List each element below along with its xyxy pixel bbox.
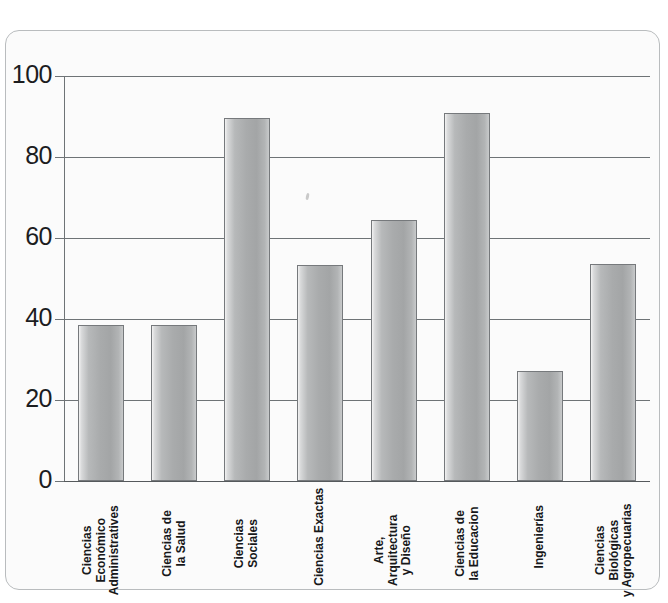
x-axis-label: CienciasEconómicoAdministratives <box>61 486 141 594</box>
bar <box>297 265 343 481</box>
bar <box>444 113 490 481</box>
bar-series <box>64 76 650 481</box>
y-tick-label-20: 20 <box>4 386 52 411</box>
x-axis-labels: CienciasEconómicoAdministrativesCiencias… <box>64 486 650 596</box>
x-axis-label-text: CienciasEconómicoAdministratives <box>80 505 121 595</box>
y-tick-label-60: 60 <box>4 224 52 249</box>
x-axis-label-text: Ingenierías <box>533 505 547 568</box>
y-tick-label-40: 40 <box>4 305 52 330</box>
bar <box>78 325 124 481</box>
y-tick-mark-20 <box>55 400 64 401</box>
y-tick-mark-60 <box>55 238 64 239</box>
bar <box>517 371 563 481</box>
bar <box>371 220 417 481</box>
x-axis-label: Ciencias Exactas <box>280 486 360 594</box>
x-axis-label-text: CienciasSociales <box>234 519 261 568</box>
x-axis-label: Ciencias dela Educacion <box>427 486 507 594</box>
y-tick-label-100: 100 <box>4 62 52 87</box>
x-axis-label-text: Ciencias dela Educacion <box>453 506 480 580</box>
x-axis-label: CienciasBiológicasy Agropecuarias <box>573 486 653 594</box>
y-tick-mark-80 <box>55 157 64 158</box>
y-tick-label-0: 0 <box>4 467 52 492</box>
bar <box>151 325 197 481</box>
x-axis-label-text: Ciencias dela Salud <box>160 510 187 577</box>
y-tick-label-80: 80 <box>4 143 52 168</box>
x-axis-label: CienciasSociales <box>207 486 287 594</box>
x-axis-label-text: CienciasBiológicasy Agropecuarias <box>593 503 634 597</box>
x-axis-label: Ingenierías <box>500 486 580 594</box>
x-axis-label: Ciencias dela Salud <box>134 486 214 594</box>
x-axis-label-text: Arte,Arquitecturay Diseño <box>373 515 414 586</box>
bar <box>590 264 636 481</box>
y-tick-mark-40 <box>55 319 64 320</box>
x-axis-label: Arte,Arquitecturay Diseño <box>354 486 434 594</box>
gridline-0 <box>64 481 650 482</box>
x-axis-label-text: Ciencias Exactas <box>314 488 328 586</box>
bar-chart-figure: 020406080100 CienciasEconómicoAdministra… <box>0 0 668 603</box>
plot-area <box>64 76 650 481</box>
bar <box>224 118 270 481</box>
y-tick-mark-100 <box>55 76 64 77</box>
y-tick-mark-0 <box>55 481 64 482</box>
